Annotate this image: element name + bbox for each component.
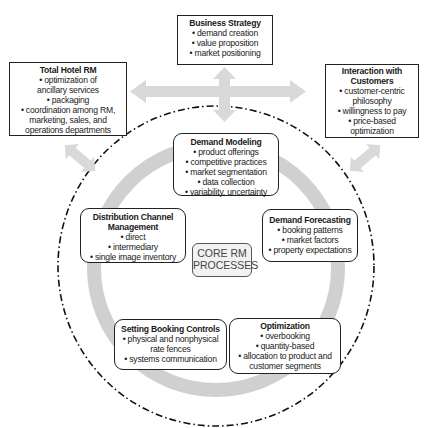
list-item: • market factors (263, 235, 357, 245)
interaction-with-customers-title: Interaction with (326, 66, 418, 76)
list-item: • direct (81, 232, 185, 242)
list-item: • demand creation (178, 28, 272, 38)
interaction-with-customers-title: Customers (326, 76, 418, 86)
list-item: • variability, uncertainty (174, 187, 278, 197)
demand-forecasting-box: Demand Forecasting • booking patterns • … (262, 209, 358, 262)
list-item: • price-based (326, 116, 418, 126)
total-hotel-rm-title: Total Hotel RM (10, 65, 126, 75)
optimization-title: Optimization (230, 321, 340, 331)
list-item: philosophy (326, 96, 418, 106)
list-item: operations departments (10, 125, 126, 135)
list-item: rate fences (115, 344, 226, 354)
list-item: • physical and nonphysical (115, 334, 226, 344)
list-item: • competitive practices (174, 157, 278, 167)
interaction-with-customers-box: Interaction with Customers • customer-ce… (325, 64, 419, 138)
list-item: • market positioning (178, 48, 272, 58)
setting-booking-controls-title: Setting Booking Controls (115, 324, 226, 334)
list-item: • packaging (10, 95, 126, 105)
core-rm-processes-label: CORE RM PROCESSES (192, 243, 252, 277)
distribution-channel-title: Distribution Channel (81, 212, 185, 222)
list-item: customer segments (230, 361, 340, 371)
right-diagonal-double-arrow (343, 137, 386, 178)
list-item: • overbooking (230, 331, 340, 341)
distribution-channel-title: Management (81, 222, 185, 232)
list-item: • booking patterns (263, 225, 357, 235)
list-item: • value proposition (178, 38, 272, 48)
list-item: • data collection (174, 177, 278, 187)
core-label-line: CORE RM (193, 247, 251, 259)
list-item: • intermediary (81, 242, 185, 252)
list-item: marketing, sales, and (10, 115, 126, 125)
horizontal-double-arrow (130, 80, 306, 103)
list-item: optimization (326, 126, 418, 136)
list-item: • optimization of (10, 75, 126, 85)
list-item: • quantity-based (230, 341, 340, 351)
total-hotel-rm-box: Total Hotel RM • optimization of ancilla… (9, 62, 127, 136)
list-item: • product offerings (174, 147, 278, 157)
list-item: • coordination among RM, (10, 105, 126, 115)
demand-modeling-box: Demand Modeling • product offerings • co… (173, 133, 279, 196)
list-item: • systems communication (115, 354, 226, 364)
list-item: • customer-centric (326, 86, 418, 96)
list-item: • allocation to product and (230, 351, 340, 361)
distribution-channel-management-box: Distribution Channel Management • direct… (80, 208, 186, 263)
list-item: • market segmentation (174, 167, 278, 177)
list-item: • property expectations (263, 245, 357, 255)
list-item: • willingness to pay (326, 106, 418, 116)
core-label-line: PROCESSES (193, 259, 251, 271)
demand-forecasting-title: Demand Forecasting (263, 215, 357, 225)
list-item: • single image inventory (81, 252, 185, 262)
left-diagonal-double-arrow (58, 137, 101, 178)
business-strategy-box: Business Strategy • demand creation • va… (177, 15, 273, 65)
demand-modeling-title: Demand Modeling (174, 137, 278, 147)
optimization-box: Optimization • overbooking • quantity-ba… (229, 318, 341, 374)
list-item: ancillary services (10, 85, 126, 95)
setting-booking-controls-box: Setting Booking Controls • physical and … (114, 319, 227, 370)
business-strategy-title: Business Strategy (178, 18, 272, 28)
